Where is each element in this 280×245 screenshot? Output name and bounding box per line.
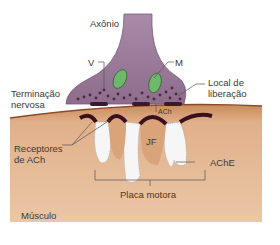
label-ach-receptors-2: de ACh [14,154,45,165]
neuromuscular-junction-diagram [0,0,280,245]
label-ach: ACh [158,106,172,117]
label-vesicle: V [88,57,94,68]
label-mitochondrion: M [175,57,183,68]
label-ache: AChE [210,157,235,168]
label-muscle: Músculo [21,210,56,221]
label-release-site: Local de [208,77,244,88]
label-junctional-fold: JF [146,136,157,147]
label-nerve-terminal: Terminação [11,88,60,99]
label-endplate: Placa motora [120,189,176,200]
label-ach-receptors: Receptores [14,143,63,154]
label-axon: Axônio [90,18,119,29]
nerve-terminal [66,14,186,106]
label-release-site-2: liberação [208,88,247,99]
label-nerve-terminal-2: nervosa [11,99,45,110]
